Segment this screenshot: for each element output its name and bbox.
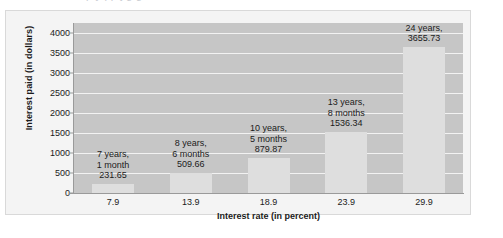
y-axis-tick-label: 1500 <box>34 128 70 138</box>
bar-data-label-line: 8 months <box>328 108 365 119</box>
x-axis-tick-labels: 7.913.918.923.929.9 <box>74 197 463 211</box>
x-axis-tick-label: 23.9 <box>338 197 356 207</box>
x-axis-line <box>70 193 464 194</box>
y-axis-title: Interest paid (in dollars) <box>24 8 34 148</box>
y-axis-tick-label: 0 <box>34 188 70 198</box>
y-axis-tick-mark <box>69 93 73 94</box>
y-axis-tick-label: 3000 <box>34 68 70 78</box>
y-axis-tick-label: 4000 <box>34 28 70 38</box>
bar-data-label: 10 years,5 months879.87 <box>250 123 287 155</box>
plot-area: 7 years,1 month231.658 years,6 months509… <box>74 23 463 193</box>
bar[interactable] <box>92 184 134 193</box>
bar-data-label: 24 years,3655.73 <box>406 23 443 44</box>
bar-data-label-line: 10 years, <box>250 123 287 134</box>
bar-data-label-line: 5 months <box>250 134 287 145</box>
bar-data-label-line: 6 months <box>172 149 209 160</box>
x-axis-tick-label: 13.9 <box>182 197 200 207</box>
y-axis-tick-mark <box>69 173 73 174</box>
y-axis-tick-label: 3500 <box>34 48 70 58</box>
x-axis-tick-label: 29.9 <box>415 197 433 207</box>
bar-data-label-line: 8 years, <box>172 138 209 149</box>
y-axis-tick-mark <box>69 33 73 34</box>
x-axis-tick-label: 18.9 <box>260 197 278 207</box>
bar-data-label: 8 years,6 months509.66 <box>172 138 209 170</box>
clipped-header-text: p y pp j g g <box>0 0 503 9</box>
bar-data-label-line: 7 years, <box>97 149 130 160</box>
y-axis-tick-mark <box>69 153 73 154</box>
bar-data-label-line: 231.65 <box>97 170 130 181</box>
bar-slot <box>248 23 290 193</box>
bar-data-label-line: 13 years, <box>328 97 365 108</box>
bar-data-label-line: 1536.34 <box>328 118 365 129</box>
y-axis-tick-label: 500 <box>34 168 70 178</box>
bar[interactable] <box>170 173 212 193</box>
y-axis-tick-mark <box>69 113 73 114</box>
bar[interactable] <box>248 158 290 193</box>
bar-data-label-line: 3655.73 <box>406 33 443 44</box>
y-axis-tick-mark <box>69 193 73 194</box>
y-axis-tick-mark <box>69 133 73 134</box>
bar-data-label-line: 509.66 <box>172 159 209 170</box>
y-axis-tick-mark <box>69 53 73 54</box>
y-axis-tick-label: 1000 <box>34 148 70 158</box>
y-axis-tick-label: 2500 <box>34 88 70 98</box>
bar-data-label-line: 24 years, <box>406 23 443 33</box>
bar-data-label-line: 879.87 <box>250 144 287 155</box>
bar-slot <box>403 23 445 193</box>
bar-data-label: 7 years,1 month231.65 <box>97 149 130 181</box>
y-axis-tick-mark <box>69 73 73 74</box>
y-axis-tick-labels: 05001000150020002500300035004000 <box>34 11 70 216</box>
chart-figure-panel: Interest paid (in dollars) 0500100015002… <box>5 10 471 215</box>
x-axis-title: Interest rate (in percent) <box>74 211 463 221</box>
clipped-header-glyphs: p y pp j g g <box>86 0 142 1</box>
x-axis-tick-label: 7.9 <box>107 197 120 207</box>
bar-data-label: 13 years,8 months1536.34 <box>328 97 365 129</box>
bar-series: 7 years,1 month231.658 years,6 months509… <box>74 23 463 193</box>
bar[interactable] <box>325 132 367 193</box>
bar-data-label-line: 1 month <box>97 160 130 171</box>
y-axis-tick-label: 2000 <box>34 108 70 118</box>
bar[interactable] <box>403 47 445 193</box>
